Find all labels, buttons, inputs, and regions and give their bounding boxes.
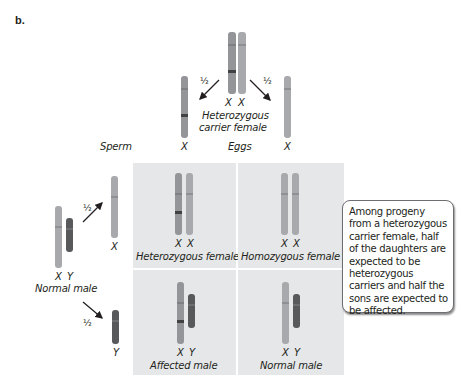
cell-label-x1: X [175, 238, 182, 249]
arrow-to-y-sperm [83, 302, 102, 318]
punnett-cell-normal-male: X Y Normal male [238, 270, 344, 375]
prob-right-egg: ½ [263, 76, 272, 86]
cell-caption: Homozygous female [241, 251, 340, 262]
cell-label-x2: X [187, 238, 194, 249]
sperm-x-label: X [111, 241, 118, 252]
sperm-x-chromosome [111, 176, 118, 238]
male-x-chromosome [55, 206, 62, 268]
cell-caption: Heterozygous female [136, 251, 239, 262]
cell-caption: Normal male [260, 360, 322, 371]
cell-label-x: X [282, 347, 289, 358]
cell-label-y: Y [189, 347, 195, 358]
cell-label-y: Y [294, 347, 300, 358]
x-chromosome-mutant [228, 32, 236, 94]
sperm-y-label: Y [113, 347, 119, 358]
egg-x-normal [284, 76, 291, 138]
male-caption: Normal male [35, 283, 97, 294]
egg-left-label: X [181, 141, 188, 152]
punnett-cell-affected-male: X Y Affected male [133, 270, 236, 375]
prob-left-egg: ½ [200, 76, 209, 86]
male-label-x: X [55, 271, 62, 282]
eggs-heading: Eggs [228, 141, 251, 152]
cell-label-x2: X [293, 238, 300, 249]
x-chromosome-normal [281, 173, 288, 235]
x-chromosome-normal [292, 173, 299, 235]
sperm-y-chromosome [112, 310, 119, 344]
egg-x-mutant [181, 76, 188, 138]
male-label-y: Y [67, 271, 73, 282]
punnett-cell-heterozygous-female: X X Heterozygous female [133, 163, 236, 268]
prob-x-sperm: ½ [83, 203, 92, 213]
parent-female-label-x2: X [238, 97, 245, 108]
explanation-callout: Among progeny from a heterozygous carrie… [342, 200, 454, 313]
parent-female-caption-1: Heterozygous [202, 110, 269, 121]
x-chromosome-normal [282, 282, 289, 344]
x-chromosome-normal [186, 173, 193, 235]
punnett-cell-homozygous-female: X X Homozygous female [238, 163, 344, 268]
parent-female-label-x1: X [225, 97, 232, 108]
sperm-heading: Sperm [100, 141, 132, 152]
male-y-chromosome [66, 218, 73, 252]
cell-caption: Affected male [150, 360, 217, 371]
x-chromosome-normal [238, 32, 246, 94]
prob-y-sperm: ½ [83, 318, 92, 328]
x-chromosome-mutant [177, 282, 184, 344]
parent-female-caption-2: carrier female [199, 122, 267, 133]
x-chromosome-mutant [175, 173, 182, 235]
cell-label-x: X [177, 347, 184, 358]
egg-right-label: X [284, 141, 291, 152]
y-chromosome [188, 294, 195, 328]
y-chromosome [293, 294, 300, 328]
cell-label-x1: X [281, 238, 288, 249]
